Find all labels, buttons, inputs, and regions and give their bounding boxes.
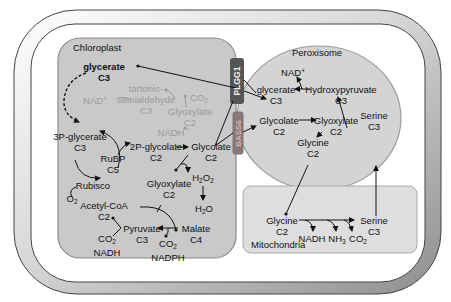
node-3p-glycerate: 3P-glycerateC3 bbox=[53, 131, 106, 153]
node-glycine-mitochondria: GlycineC2 bbox=[266, 215, 298, 237]
node-glyoxylate-peroxisome: GlyoxylateC2 bbox=[314, 115, 358, 137]
bass6-label: BASS6 bbox=[233, 112, 243, 154]
node-rubisco: Rubisco bbox=[76, 180, 110, 191]
node-hydroxypyruvate: HydroxypyruvateC3 bbox=[305, 84, 376, 106]
node-2p-glycolate: 2P-glycolateC2 bbox=[130, 141, 182, 163]
node-tartronic-semialdehyde: tartonic-semialdehydeC3 bbox=[117, 83, 176, 116]
mitochondria-label: Mitochondria bbox=[251, 239, 305, 250]
node-nadh-gray: NADH bbox=[158, 127, 185, 138]
photorespiration-diagram: Chloroplast Peroxisome Mitochondria PLGG… bbox=[0, 0, 451, 302]
node-malate: MalateC4 bbox=[182, 223, 211, 245]
node-glycolate-peroxisome: GlycolateC2 bbox=[259, 115, 299, 137]
node-nad-plus-peroxisome: NAD+ bbox=[281, 65, 305, 78]
node-h2o: H2O bbox=[195, 203, 213, 217]
plgg1-label: PLGG1 bbox=[230, 58, 244, 104]
node-acetyl-coa: Acetyl-CoAC2 bbox=[80, 200, 128, 222]
chloroplast-label: Chloroplast bbox=[73, 42, 121, 53]
node-glycerate-chloroplast: glycerateC3 bbox=[83, 61, 125, 83]
node-h2o2: H2O2 bbox=[192, 172, 214, 186]
node-co2-nadph: CO2NADPH bbox=[151, 238, 184, 263]
node-co2-mitochondria: CO2 bbox=[349, 233, 367, 247]
node-nh3: NH3 bbox=[328, 233, 345, 247]
peroxisome-label: Peroxisome bbox=[292, 47, 342, 58]
node-glyoxylate-chloroplast: GlyoxylateC2 bbox=[147, 178, 191, 200]
node-glycolate-chloroplast: GlycolateC2 bbox=[191, 141, 231, 163]
node-nad-plus-gray: NAD+ bbox=[83, 93, 107, 106]
node-o2: O2 bbox=[66, 193, 77, 207]
node-glyoxylate-gray: GlyoxylateC2 bbox=[168, 106, 212, 128]
node-co2-gray: CO2 bbox=[190, 92, 208, 106]
node-glycine-peroxisome: GlycineC2 bbox=[297, 137, 329, 159]
node-rubp: RuBPC5 bbox=[101, 153, 126, 175]
node-nadh-mitochondria: NADH bbox=[299, 233, 326, 244]
node-glycerate-peroxisome: glycerateC3 bbox=[257, 84, 296, 106]
node-serine-peroxisome: SerineC3 bbox=[360, 110, 387, 132]
node-co2-nadh: CO2NADH bbox=[94, 233, 121, 258]
